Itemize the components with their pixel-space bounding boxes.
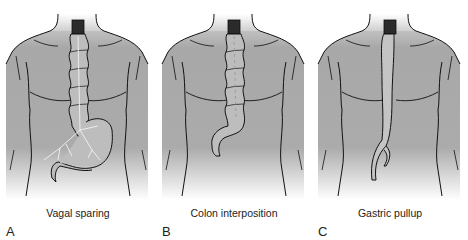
panel-c: Gastric pullup C — [312, 0, 468, 240]
panel-caption: Colon interposition — [156, 207, 312, 219]
esophagus-remnant-icon — [228, 20, 240, 34]
esophagus-remnant-icon — [72, 20, 84, 34]
torso-illustration-colon-interposition — [156, 0, 312, 210]
panel-letter: A — [6, 224, 15, 239]
panel-caption: Vagal sparing — [0, 207, 156, 219]
panel-letter: C — [318, 224, 327, 239]
panel-letter: B — [162, 224, 171, 239]
torso-illustration-vagal-sparing — [0, 0, 156, 210]
panel-b: Colon interposition B — [156, 0, 312, 240]
torso-illustration-gastric-pullup — [312, 0, 468, 210]
panel-caption: Gastric pullup — [312, 207, 468, 219]
esophagus-remnant-icon — [384, 20, 396, 34]
panel-a: Vagal sparing A — [0, 0, 156, 240]
